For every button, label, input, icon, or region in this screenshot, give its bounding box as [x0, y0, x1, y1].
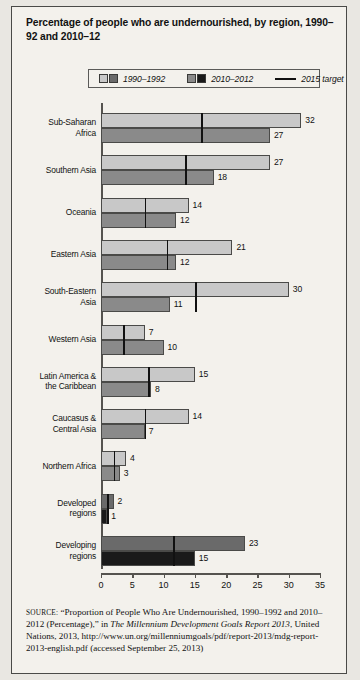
chart-row: Sub-SaharanAfrica3227	[12, 113, 348, 147]
legend-swatch-dark-1990	[109, 74, 118, 83]
bar-1990-value-label: 23	[249, 536, 258, 551]
bar-2010	[101, 128, 270, 143]
category-label: Southern Asia	[14, 165, 96, 176]
bar-2010-value-label: 3	[124, 466, 129, 481]
x-tick	[257, 573, 258, 578]
category-label: Caucasus &Central Asia	[14, 413, 96, 434]
bar-2010	[101, 424, 145, 439]
chart-row: Developingregions2315	[12, 536, 348, 570]
bar-1990-value-label: 2	[118, 494, 123, 509]
bar-1990-value-label: 30	[293, 282, 302, 297]
legend-label-target: 2015 target	[301, 74, 343, 84]
category-label: Developedregions	[14, 498, 96, 519]
bar-2010	[101, 255, 176, 270]
target-line-2015	[123, 325, 125, 355]
target-line-2015	[145, 409, 147, 439]
bar-2010-value-label: 11	[174, 297, 183, 312]
category-label: Latin America &the Caribbean	[14, 371, 96, 392]
x-tick	[320, 573, 321, 578]
chart-row: Developedregions21	[12, 494, 348, 528]
bar-1990-value-label: 7	[149, 325, 154, 340]
category-label: Sub-SaharanAfrica	[14, 117, 96, 138]
bar-2010	[101, 297, 170, 312]
x-tick	[289, 573, 290, 578]
x-tick-label: 15	[183, 580, 207, 590]
x-tick-label: 10	[152, 580, 176, 590]
x-tick-label: 0	[89, 580, 113, 590]
category-label: Northern Africa	[14, 461, 96, 472]
chart-row: South-EasternAsia3011	[12, 282, 348, 316]
bar-1990-value-label: 21	[236, 240, 245, 255]
x-tick-label: 25	[245, 580, 269, 590]
x-tick	[195, 573, 196, 578]
legend-label-2010: 2010–2012	[211, 74, 253, 84]
bar-1990-value-label: 27	[274, 155, 283, 170]
chart-row: Oceania1412	[12, 198, 348, 232]
bar-2010	[101, 466, 120, 481]
category-label: Developingregions	[14, 540, 96, 561]
bar-2010-value-label: 18	[218, 170, 227, 185]
legend-label-1990: 1990–1992	[123, 74, 165, 84]
x-tick	[132, 573, 133, 578]
bar-1990-value-label: 32	[305, 113, 314, 128]
bar-2010	[101, 382, 151, 397]
category-label: Oceania	[14, 207, 96, 218]
bar-2010	[101, 213, 176, 228]
legend-item-target: 2015 target	[275, 74, 343, 84]
legend-item-1990: 1990–1992	[99, 74, 165, 84]
chart-row: Western Asia710	[12, 325, 348, 359]
category-label: Eastern Asia	[14, 249, 96, 260]
target-line-2015	[145, 198, 147, 228]
bar-1990-value-label: 4	[130, 451, 135, 466]
x-axis: 05101520253035	[12, 573, 348, 599]
bar-1990-value-label: 14	[193, 409, 202, 424]
x-tick	[164, 573, 165, 578]
bar-2010-value-label: 10	[168, 340, 177, 355]
target-line-2015	[195, 282, 197, 312]
bar-2010-value-label: 15	[199, 551, 208, 566]
target-line-2015	[148, 367, 150, 397]
legend-swatch-dark-2010	[197, 74, 206, 83]
chart-row: Latin America &the Caribbean158	[12, 367, 348, 401]
source-note: SOURCE: “Proportion of People Who Are Un…	[26, 607, 332, 655]
bar-2010	[101, 340, 164, 355]
chart-row: Caucasus &Central Asia147	[12, 409, 348, 443]
target-line-2015	[201, 113, 203, 143]
bar-2010	[101, 551, 195, 566]
legend-swatch-light-2010	[187, 74, 196, 83]
legend-item-2010: 2010–2012	[187, 74, 253, 84]
target-line-2015	[167, 240, 169, 270]
bar-2010-value-label: 27	[274, 128, 283, 143]
target-line-2015	[114, 451, 116, 481]
source-title-italic: The Millennium Development Goals Report …	[110, 619, 290, 629]
chart-row: Northern Africa43	[12, 451, 348, 485]
chart-legend: 1990–1992 2010–2012 2015 target	[88, 69, 320, 88]
x-tick-label: 5	[120, 580, 144, 590]
plot-area: Sub-SaharanAfrica3227Southern Asia2718Oc…	[12, 103, 348, 573]
bar-1990-value-label: 15	[199, 367, 208, 382]
x-tick	[101, 573, 102, 578]
x-axis-line	[101, 573, 320, 575]
x-tick-label: 20	[214, 580, 238, 590]
category-label: South-EasternAsia	[14, 286, 96, 307]
bar-2010-value-label: 1	[111, 509, 116, 524]
bar-2010-value-label: 12	[180, 255, 189, 270]
x-tick-label: 30	[277, 580, 301, 590]
bar-2010-value-label: 12	[180, 213, 189, 228]
figure-panel: Percentage of people who are undernouris…	[11, 6, 347, 674]
target-line-2015	[107, 494, 109, 524]
legend-swatch-light-1990	[99, 74, 108, 83]
target-line-2015	[185, 155, 187, 185]
chart-row: Southern Asia2718	[12, 155, 348, 189]
category-label: Western Asia	[14, 334, 96, 345]
source-prefix: SOURCE:	[26, 608, 58, 617]
chart-row: Eastern Asia2112	[12, 240, 348, 274]
chart-title: Percentage of people who are undernouris…	[26, 16, 334, 43]
x-tick	[226, 573, 227, 578]
bar-1990-value-label: 14	[193, 198, 202, 213]
x-tick-label: 35	[308, 580, 332, 590]
target-line-2015	[173, 536, 175, 566]
bar-2010-value-label: 8	[155, 382, 160, 397]
legend-line-target-icon	[275, 78, 296, 80]
bar-2010	[101, 170, 214, 185]
